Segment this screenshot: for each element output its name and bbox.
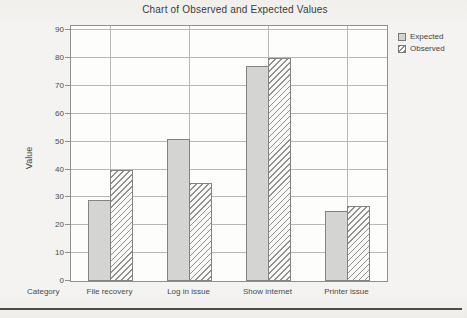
x-category-label: Show internet bbox=[223, 287, 313, 296]
legend-entry-observed: Observed bbox=[398, 44, 445, 53]
gridline-horizontal bbox=[71, 29, 387, 30]
y-tick-label-40: 40 bbox=[38, 165, 64, 175]
x-category-label: File recovery bbox=[65, 287, 155, 296]
legend-entry-expected: Expected bbox=[398, 32, 445, 41]
y-tick-label-50: 50 bbox=[38, 137, 64, 147]
legend-label: Expected bbox=[410, 32, 443, 41]
y-tick-label-30: 30 bbox=[38, 192, 64, 202]
gridline-horizontal bbox=[71, 85, 387, 86]
y-tick-mark-70 bbox=[65, 85, 70, 86]
x-category-label: Log in issue bbox=[144, 287, 234, 296]
plot-area bbox=[70, 25, 388, 282]
bar-expected-2 bbox=[246, 66, 269, 281]
page-divider-rule bbox=[0, 308, 462, 310]
y-tick-mark-30 bbox=[65, 196, 70, 197]
y-tick-mark-80 bbox=[65, 57, 70, 58]
legend-swatch-hatched-icon bbox=[398, 45, 406, 53]
y-tick-label-10: 10 bbox=[38, 248, 64, 258]
x-category-label: Printer issue bbox=[302, 287, 392, 296]
y-tick-label-70: 70 bbox=[38, 81, 64, 91]
bar-observed-1 bbox=[189, 183, 212, 281]
y-tick-mark-10 bbox=[65, 252, 70, 253]
bar-expected-3 bbox=[325, 211, 348, 281]
y-tick-label-0: 0 bbox=[38, 276, 64, 286]
bar-expected-0 bbox=[88, 200, 111, 281]
legend: ExpectedObserved bbox=[398, 32, 445, 56]
y-tick-mark-60 bbox=[65, 113, 70, 114]
y-tick-mark-90 bbox=[65, 29, 70, 30]
legend-swatch-solid-icon bbox=[398, 33, 406, 41]
y-tick-label-90: 90 bbox=[38, 25, 64, 35]
gridline-horizontal bbox=[71, 141, 387, 142]
legend-label: Observed bbox=[410, 44, 445, 53]
bar-observed-0 bbox=[110, 170, 133, 281]
y-tick-mark-40 bbox=[65, 169, 70, 170]
y-tick-mark-50 bbox=[65, 141, 70, 142]
y-tick-label-60: 60 bbox=[38, 109, 64, 119]
y-tick-mark-0 bbox=[65, 280, 70, 281]
y-tick-label-20: 20 bbox=[38, 220, 64, 230]
y-tick-mark-20 bbox=[65, 224, 70, 225]
chart-page: Chart of Observed and Expected Values Va… bbox=[0, 0, 467, 318]
bar-observed-3 bbox=[347, 206, 370, 281]
y-axis-label: Value bbox=[24, 128, 36, 188]
x-axis-label: Category bbox=[27, 287, 69, 296]
chart-title: Chart of Observed and Expected Values bbox=[70, 4, 400, 15]
bar-observed-2 bbox=[268, 58, 291, 281]
y-tick-label-80: 80 bbox=[38, 53, 64, 63]
bar-expected-1 bbox=[167, 139, 190, 281]
gridline-horizontal bbox=[71, 113, 387, 114]
gridline-horizontal bbox=[71, 57, 387, 58]
